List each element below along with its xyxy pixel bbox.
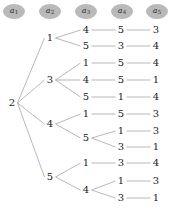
header-node-a5: a5 [146,4,168,19]
tree-node-label: 4 [153,41,159,51]
header-label-subscript: 4 [123,10,127,16]
tree-node-label: 4 [153,158,159,168]
tree-node-label: 4 [83,185,89,195]
tree-node-label: 4 [153,58,159,68]
tree-edge [56,163,81,177]
tree-node-label: 4 [83,75,89,85]
tree-edge [56,177,81,190]
tree-node-label: 2 [9,98,15,108]
header-label-subscript: 1 [15,10,19,16]
tree-node-label: 3 [153,176,159,186]
header-node-a2: a2 [39,4,61,19]
tree-node-label: 5 [83,41,89,51]
tree-node-label: 5 [47,172,53,182]
tree-node-label: 3 [118,142,124,152]
tree-edge [56,38,81,46]
tree-edge [92,181,116,190]
tree-edge [92,131,116,138]
tree-diagram-canvas: a1a2a3a4a5 21345451451514535515133133441… [0,0,170,217]
header-node-a4: a4 [111,4,133,19]
tree-node-label: 5 [118,75,124,85]
tree-edge [56,114,81,124]
tree-node-label: 3 [118,158,124,168]
tree-node-label: 4 [47,119,53,129]
tree-edge [56,63,81,80]
tree-edge [92,138,116,147]
tree-node-label: 1 [83,58,89,68]
tree-node-label: 5 [118,109,124,119]
tree-node-label: 1 [118,92,124,102]
header-node-a1: a1 [3,4,25,19]
tree-node-label: 3 [118,41,124,51]
tree-node-label: 1 [83,158,89,168]
header-label-subscript: 2 [51,10,55,16]
tree-edge [18,103,45,177]
tree-edge [56,80,81,97]
tree-node-label: 4 [83,25,89,35]
tree-node-label: 4 [153,92,159,102]
tree-edge [56,124,81,138]
tree-node-label: 1 [83,109,89,119]
header-node-a3: a3 [75,4,97,19]
tree-node-label: 5 [83,92,89,102]
tree-edge [92,190,116,198]
tree-node-label: 5 [118,58,124,68]
tree-node-label: 1 [118,176,124,186]
header-label-subscript: 5 [158,10,162,16]
tree-edge [18,38,45,103]
tree-node-label: 3 [153,126,159,136]
tree-node-label: 1 [153,193,159,203]
tree-node-label: 3 [153,109,159,119]
tree-edge [18,80,45,103]
header-label-subscript: 3 [87,10,91,16]
tree-edge [56,30,81,38]
tree-node-label: 3 [118,193,124,203]
tree-node-label: 1 [153,75,159,85]
tree-node-label: 3 [47,75,53,85]
tree-node-label: 5 [118,25,124,35]
tree-node-label: 1 [118,126,124,136]
tree-node-label: 1 [47,33,53,43]
tree-node-label: 1 [153,142,159,152]
tree-node-label: 3 [153,25,159,35]
tree-node-label: 5 [83,133,89,143]
